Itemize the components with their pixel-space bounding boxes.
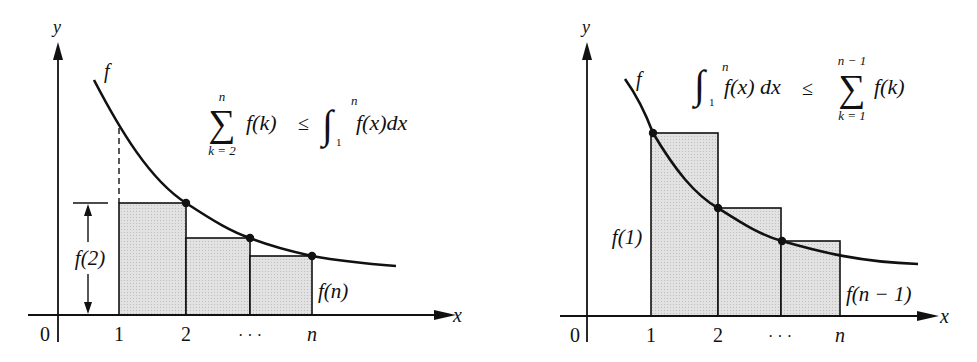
- right-integral-symbol-icon: ∫: [691, 62, 708, 109]
- left-origin-label: 0: [40, 323, 50, 345]
- right-origin-label: 0: [570, 324, 580, 346]
- right-point-2: [714, 204, 722, 212]
- left-height-label: f(2): [75, 246, 105, 270]
- right-x-label: x: [939, 305, 949, 327]
- integral-test-diagram: y x 0 f 1 2 · · · n f(2) f(n) n ∑ k = 2 …: [0, 0, 977, 362]
- left-tick-1: 1: [114, 323, 124, 345]
- right-y-arrow-icon: [582, 42, 592, 60]
- right-int-upper: n: [722, 59, 729, 74]
- right-rect-3: [781, 241, 840, 316]
- left-rect-3: [250, 256, 312, 315]
- right-panel: y x 0 f 1 2 · · · n f(1) f(n − 1) ∫ n 1 …: [560, 17, 949, 346]
- left-last-label: f(n): [318, 279, 348, 303]
- left-point-n: [308, 252, 316, 260]
- right-rect-1: [651, 133, 718, 316]
- right-sum-lower: k = 1: [838, 108, 866, 123]
- left-tick-2: 2: [181, 323, 191, 345]
- right-last-label: f(n − 1): [846, 282, 912, 306]
- left-sum-symbol-icon: ∑: [208, 102, 235, 145]
- left-rect-1: [119, 203, 186, 315]
- right-integrand: f(x) dx: [724, 74, 781, 99]
- left-rectangles: [119, 203, 312, 315]
- right-y-label: y: [580, 17, 590, 37]
- right-relation: ≤: [802, 77, 813, 99]
- right-int-lower: 1: [709, 96, 715, 108]
- left-sum-lower: k = 2: [208, 143, 236, 158]
- right-tick-1: 1: [646, 324, 656, 346]
- left-y-arrow-icon: [53, 42, 63, 60]
- right-curve-label: f: [636, 68, 644, 91]
- right-sum-upper: n − 1: [838, 53, 866, 68]
- left-integrand: f(x)dx: [356, 110, 408, 135]
- right-x-arrow-icon: [917, 311, 939, 321]
- left-point-2: [182, 199, 190, 207]
- right-point-1: [649, 129, 657, 137]
- right-tick-dots: · · ·: [768, 328, 792, 345]
- left-int-upper: n: [351, 93, 358, 108]
- left-int-lower: 1: [336, 136, 342, 148]
- right-rect-2: [718, 208, 781, 316]
- left-y-label: y: [51, 17, 61, 37]
- right-sum-symbol-icon: ∑: [838, 67, 865, 110]
- right-formula: ∫ n 1 f(x) dx ≤ n − 1 ∑ k = 1 f(k): [691, 53, 905, 123]
- left-tick-dots: · · ·: [238, 327, 262, 344]
- right-first-label: f(1): [612, 225, 642, 249]
- left-rect-2: [186, 238, 250, 315]
- left-point-3: [246, 234, 254, 242]
- left-formula: n ∑ k = 2 f(k) ≤ ∫ n 1 f(x)dx: [208, 89, 407, 158]
- left-relation: ≤: [298, 112, 309, 134]
- left-sum-term: f(k): [246, 110, 277, 135]
- right-sum-term: f(k): [874, 74, 905, 99]
- left-x-label: x: [452, 304, 462, 326]
- left-tick-n: n: [307, 323, 317, 345]
- right-tick-n: n: [835, 324, 845, 346]
- left-panel: y x 0 f 1 2 · · · n f(2) f(n) n ∑ k = 2 …: [28, 17, 462, 345]
- left-curve-label: f: [104, 60, 112, 83]
- right-tick-2: 2: [713, 324, 723, 346]
- left-integral-symbol-icon: ∫: [319, 102, 336, 149]
- right-point-3: [778, 237, 786, 245]
